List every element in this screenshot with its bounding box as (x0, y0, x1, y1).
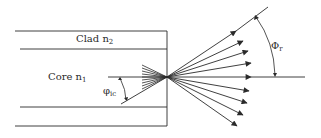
output-ray-8 (167, 77, 243, 115)
phi-ic-angle-arc (120, 78, 126, 100)
core-label: Core n1 (48, 72, 86, 82)
phi-r-symbol: Φ (271, 40, 279, 51)
fiber-exit-diagram (0, 0, 321, 138)
output-ray-6 (167, 77, 249, 91)
core-label-subscript: 1 (82, 76, 86, 84)
incident-angle-ray (121, 77, 167, 104)
output-ray-1 (167, 31, 236, 77)
phi-ic-subscript: ic (110, 90, 116, 98)
clad-label-subscript: 2 (109, 38, 113, 46)
phi-r-subscript: r (279, 45, 282, 53)
output-ray-2 (167, 41, 243, 77)
phi-ic-symbol: φ (103, 85, 110, 96)
output-ray-7 (167, 77, 247, 103)
phi-r-label: Φr (271, 41, 283, 51)
clad-label: Clad n2 (76, 34, 113, 44)
output-ray-9 (167, 77, 237, 126)
core-label-text: Core n (48, 71, 82, 82)
phi-ic-label: φic (103, 86, 116, 96)
clad-label-text: Clad n (76, 33, 109, 44)
fiber-boundaries (15, 31, 167, 126)
phi-r-arrowhead-bottom (273, 73, 277, 77)
converging-rays (142, 65, 167, 89)
output-ray-4 (167, 63, 251, 77)
output-ray-3 (167, 51, 248, 77)
output-rays (167, 31, 251, 126)
max-ray-extension-line (236, 7, 268, 31)
